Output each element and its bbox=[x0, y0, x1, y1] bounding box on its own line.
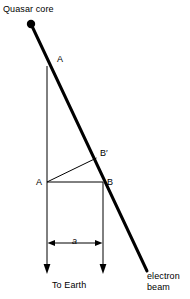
quasar-core-dot-icon bbox=[27, 20, 35, 28]
to-earth-label: To Earth bbox=[52, 280, 86, 290]
electron-beam-label-line2: beam bbox=[147, 282, 170, 292]
diagram-canvas bbox=[0, 0, 190, 299]
quasar-diagram-figure: Quasar core A A B′ B a To Earth electron… bbox=[0, 0, 190, 299]
point-label-b: B bbox=[107, 177, 113, 187]
electron-beam-label-line1: electron bbox=[147, 271, 180, 281]
point-label-a-lower: A bbox=[36, 177, 42, 187]
electron-beam-line bbox=[31, 24, 147, 271]
quasar-core-label: Quasar core bbox=[3, 4, 54, 14]
point-label-a-upper: A bbox=[57, 54, 63, 64]
separation-label-a: a bbox=[72, 236, 77, 246]
arrow-down-icon-right bbox=[100, 264, 107, 274]
dimension-arrow-right-icon bbox=[95, 240, 103, 246]
segment-a-to-b-prime bbox=[47, 158, 97, 182]
point-label-b-prime: B′ bbox=[100, 148, 108, 158]
arrow-down-icon-left bbox=[44, 264, 51, 274]
dimension-arrow-left-icon bbox=[48, 240, 56, 246]
